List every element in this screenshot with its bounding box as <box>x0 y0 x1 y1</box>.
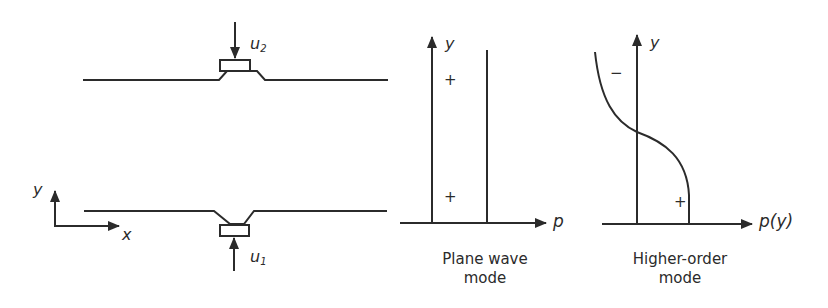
plane-caption-line2: mode <box>420 269 550 288</box>
higher-sign-bottom: + <box>674 193 687 211</box>
plane-p-axis-label: p <box>553 211 564 231</box>
coord-y-label: y <box>33 180 42 199</box>
higher-p-axis-label: p(y) <box>759 211 793 231</box>
plane-y-axis-label: y <box>445 34 454 53</box>
plane-caption-line1: Plane wave <box>420 250 550 269</box>
bottom-transducer-label: u1 <box>250 247 267 267</box>
bottom-duct-wall <box>84 211 387 224</box>
higher-caption-line2: mode <box>615 269 745 288</box>
u1-symbol: u <box>250 247 260 266</box>
top-transducer-label: u2 <box>250 34 267 54</box>
top-duct-wall <box>83 71 388 80</box>
higher-y-axis-label: y <box>650 33 659 52</box>
plane-wave-plot <box>400 37 546 224</box>
plane-sign-top: + <box>444 71 457 89</box>
duct-diagram <box>55 22 388 271</box>
u1-subscript: 1 <box>260 256 266 267</box>
higher-sign-top: − <box>610 64 623 82</box>
bottom-transducer <box>220 225 249 236</box>
u2-symbol: u <box>250 34 260 53</box>
higher-caption-line1: Higher-order <box>615 250 745 269</box>
u2-subscript: 2 <box>260 43 266 54</box>
higher-order-caption: Higher-order mode <box>615 250 745 288</box>
plane-sign-bottom: + <box>444 188 457 206</box>
plane-wave-caption: Plane wave mode <box>420 250 550 288</box>
top-transducer <box>220 60 250 71</box>
coord-x-label: x <box>122 225 131 244</box>
